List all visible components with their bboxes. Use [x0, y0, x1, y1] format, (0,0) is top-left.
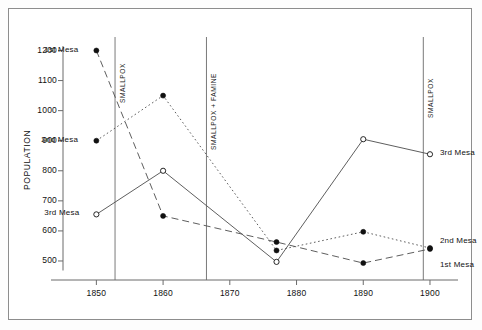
data-point-marker	[274, 248, 279, 253]
series-line-2nd-mesa	[96, 96, 430, 251]
y-axis-tick-label: 600	[26, 225, 57, 235]
event-annotation-label: SMALLPOX	[119, 63, 126, 103]
data-point-marker	[427, 152, 432, 157]
data-point-marker	[361, 137, 366, 142]
x-axis-tick-label: 1900	[416, 288, 444, 298]
data-point-marker	[274, 240, 279, 245]
data-point-marker	[161, 93, 166, 98]
y-axis-tick-label: 1000	[26, 105, 57, 115]
data-point-marker	[274, 259, 279, 264]
data-point-marker	[361, 229, 366, 234]
series-endpoint-label: 3rd Mesa	[44, 208, 79, 217]
data-point-marker	[160, 168, 165, 173]
chart-canvas: 5006007008009001000110012001850186018701…	[0, 0, 482, 330]
data-point-marker	[361, 261, 366, 266]
event-annotation-label: SMALLPOX	[427, 78, 434, 118]
data-point-marker	[94, 138, 99, 143]
event-annotation-label: SMALLPOX + FAMINE	[210, 73, 217, 150]
y-axis-title: POPULATION	[22, 130, 32, 190]
y-axis-tick-label: 500	[26, 255, 57, 265]
series-endpoint-label: 2nd Mesa	[41, 135, 78, 144]
x-axis-tick-label: 1850	[82, 288, 110, 298]
series-endpoint-label: 2nd Mesa	[440, 236, 477, 245]
x-axis-tick-label: 1880	[283, 288, 311, 298]
data-point-marker	[94, 212, 99, 217]
series-endpoint-label: 1st Mesa	[44, 45, 78, 54]
x-axis-tick-label: 1890	[349, 288, 377, 298]
data-point-marker	[94, 48, 99, 53]
x-axis-tick-label: 1870	[216, 288, 244, 298]
y-axis-tick-label: 1100	[26, 75, 57, 85]
data-point-marker	[161, 213, 166, 218]
series-line-1st-mesa	[96, 51, 430, 264]
series-line-3rd-mesa	[96, 139, 430, 262]
data-point-marker	[427, 246, 432, 251]
y-axis-tick-label: 700	[26, 195, 57, 205]
series-endpoint-label: 1st Mesa	[440, 260, 474, 269]
series-endpoint-label: 3rd Mesa	[440, 148, 475, 157]
x-axis-tick-label: 1860	[149, 288, 177, 298]
